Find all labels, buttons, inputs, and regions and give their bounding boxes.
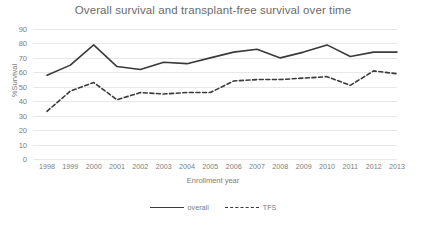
legend-swatch-icon: [225, 207, 259, 208]
x-axis-tick-label: 2001: [109, 162, 125, 171]
x-axis-tick-label: 2002: [132, 162, 148, 171]
gridline: [33, 145, 397, 146]
y-axis-tick-label: 30: [19, 111, 27, 120]
legend-swatch-icon: [150, 207, 184, 208]
chart-title: Overall survival and transplant-free sur…: [0, 4, 426, 16]
x-axis-tick-label: 2013: [389, 162, 405, 171]
gridline: [33, 130, 397, 131]
x-axis-tick-label: 2007: [249, 162, 265, 171]
x-axis-tick-label: 1998: [39, 162, 55, 171]
x-axis-tick-label: 2003: [156, 162, 172, 171]
gridline: [33, 72, 397, 73]
legend-item-overall[interactable]: overall: [150, 203, 209, 212]
gridline: [33, 159, 397, 160]
y-axis-title: %Survival: [10, 51, 19, 111]
gridline: [33, 43, 397, 44]
gridline: [33, 29, 397, 30]
legend-label: TFS: [263, 203, 277, 212]
x-axis-tick-label: 2004: [179, 162, 195, 171]
y-axis-tick-label: 80: [19, 39, 27, 48]
x-axis-tick-label: 1999: [62, 162, 78, 171]
gridline: [33, 101, 397, 102]
y-axis-tick-label: 40: [19, 97, 27, 106]
legend-item-tfs[interactable]: TFS: [225, 203, 277, 212]
x-axis-tick-label: 2011: [343, 162, 358, 171]
x-axis-title: Enrollment year: [0, 176, 426, 185]
y-axis-tick-label: 60: [19, 68, 27, 77]
gridline: [33, 87, 397, 88]
x-axis-tick-label: 2008: [272, 162, 288, 171]
y-axis-tick-label: 50: [19, 82, 27, 91]
legend-label: overall: [188, 203, 209, 212]
y-axis-tick-label: 70: [19, 53, 27, 62]
x-axis-tick-label: 2006: [226, 162, 242, 171]
y-axis-tick-label: 90: [19, 25, 27, 34]
x-axis-tick-label: 2012: [366, 162, 382, 171]
chart-legend: overallTFS: [0, 203, 426, 212]
x-axis-tick-label: 2005: [202, 162, 218, 171]
x-axis-tick-label: 2010: [319, 162, 335, 171]
x-axis-tick-labels: 1998199920002001200220032004200520062007…: [0, 162, 426, 174]
plot-area: [33, 29, 397, 159]
x-axis-tick-label: 2000: [86, 162, 102, 171]
y-axis-tick-label: 10: [19, 140, 27, 149]
y-axis-tick-label: 20: [19, 126, 27, 135]
chart-container: Overall survival and transplant-free sur…: [0, 0, 426, 225]
x-axis-tick-label: 2009: [296, 162, 312, 171]
gridline: [33, 58, 397, 59]
gridline: [33, 116, 397, 117]
